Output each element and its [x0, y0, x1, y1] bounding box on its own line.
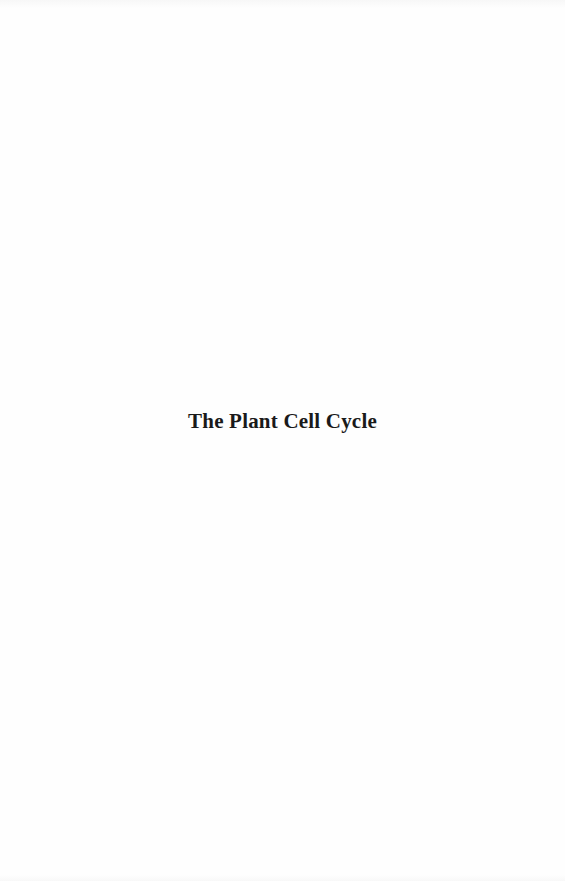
page-top-edge	[0, 0, 565, 8]
book-title: The Plant Cell Cycle	[0, 406, 565, 436]
page-bottom-edge	[0, 875, 565, 881]
half-title-page: The Plant Cell Cycle	[0, 0, 565, 881]
